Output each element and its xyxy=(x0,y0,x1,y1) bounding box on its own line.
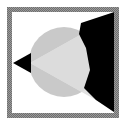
figure-svg xyxy=(0,0,133,126)
figure-container xyxy=(0,0,133,126)
